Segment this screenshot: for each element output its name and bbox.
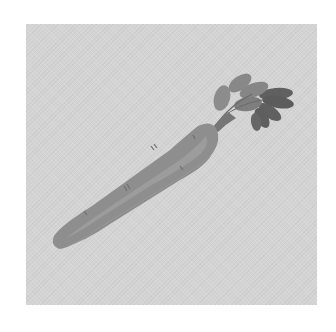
carrot-body (53, 123, 218, 249)
carrot-illustration (0, 0, 336, 332)
